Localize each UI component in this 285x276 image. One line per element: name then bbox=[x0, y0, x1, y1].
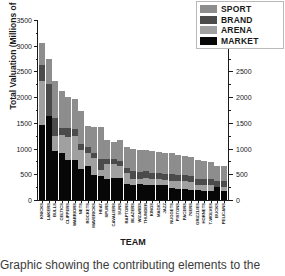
bar-segment-sport bbox=[85, 126, 91, 147]
x-axis-tick-label: BLAZERS bbox=[131, 203, 135, 223]
bar-segment-market bbox=[143, 185, 149, 200]
bar-column[interactable] bbox=[124, 20, 130, 200]
legend-item-sport[interactable]: SPORT bbox=[200, 4, 281, 15]
bar-column[interactable] bbox=[162, 20, 168, 200]
y-axis-right-tick bbox=[229, 200, 233, 201]
bar-segment-sport bbox=[214, 166, 220, 181]
y-axis-tick-label: 1500 bbox=[16, 119, 32, 126]
bar-segment-sport bbox=[175, 155, 181, 175]
bar-segment-brand bbox=[98, 159, 104, 170]
bar-segment-market bbox=[195, 190, 201, 200]
bar-column[interactable] bbox=[85, 20, 91, 200]
bar-segment-market bbox=[98, 176, 104, 200]
bar-segment-sport bbox=[117, 140, 123, 161]
bar-segment-market bbox=[46, 116, 52, 200]
bar-column[interactable] bbox=[188, 20, 194, 200]
legend-item-brand[interactable]: BRAND bbox=[200, 15, 281, 26]
bar-segment-sport bbox=[78, 111, 84, 143]
bar-column[interactable] bbox=[98, 20, 104, 200]
bar-segment-arena bbox=[65, 137, 71, 160]
bar-column[interactable] bbox=[175, 20, 181, 200]
x-tick-label-slot: WIZARDS bbox=[137, 201, 143, 237]
bar-column[interactable] bbox=[117, 20, 123, 200]
bar-column[interactable] bbox=[111, 20, 117, 200]
bar-segment-brand bbox=[39, 65, 45, 80]
bar-column[interactable] bbox=[52, 20, 58, 200]
bar-column[interactable] bbox=[182, 20, 188, 200]
bar-segment-sport bbox=[39, 43, 45, 65]
bar-segment-arena bbox=[52, 136, 58, 151]
bar-column[interactable] bbox=[169, 20, 175, 200]
bar-column[interactable] bbox=[137, 20, 143, 200]
bar-column[interactable] bbox=[39, 20, 45, 200]
bar-segment-market bbox=[162, 185, 168, 200]
x-axis-tick-label: SPURS bbox=[105, 203, 109, 217]
bar-segment-market bbox=[39, 125, 45, 200]
y-axis-tick-label: 1000 bbox=[16, 145, 32, 152]
x-tick-label-slot: WARRIORS bbox=[72, 201, 78, 237]
y-axis-right-tick-label: 2000 bbox=[236, 94, 252, 101]
bar-segment-arena bbox=[175, 181, 181, 189]
bar-column[interactable] bbox=[130, 20, 136, 200]
x-axis-tick-label: WIZARDS bbox=[137, 203, 141, 223]
bar-segment-sport bbox=[52, 81, 58, 118]
x-axis-tick-label: PISTONS bbox=[176, 203, 180, 221]
x-tick-label-slot: SPURS bbox=[104, 201, 110, 237]
y-axis-right-tick-label: 1500 bbox=[236, 119, 252, 126]
bar-segment-sport bbox=[104, 140, 110, 160]
bar-column[interactable] bbox=[149, 20, 155, 200]
y-axis-tick-label: 500 bbox=[20, 171, 32, 178]
bar-column[interactable] bbox=[104, 20, 110, 200]
bar-column[interactable] bbox=[65, 20, 71, 200]
legend-item-arena[interactable]: ARENA bbox=[200, 25, 281, 36]
legend-label: MARKET bbox=[221, 37, 259, 46]
legend-label: BRAND bbox=[221, 16, 253, 25]
x-axis-tick-label: MAVERICKS bbox=[92, 203, 96, 228]
bar-column[interactable] bbox=[72, 20, 78, 200]
bar-segment-arena bbox=[143, 178, 149, 185]
bar-segment-market bbox=[78, 169, 84, 200]
x-tick-label-slot: PELICANS bbox=[221, 201, 227, 237]
y-axis-left-ticks: 0500100015002000250030003500 bbox=[0, 0, 38, 276]
x-axis-tick-label: PACERS bbox=[183, 203, 187, 220]
bar-segment-sport bbox=[195, 160, 201, 179]
bar-segment-market bbox=[208, 191, 214, 200]
legend-item-market[interactable]: MARKET bbox=[200, 36, 281, 47]
x-axis-tick-label: RAPTORS bbox=[124, 203, 128, 223]
y-axis-right-minor-tick bbox=[229, 84, 231, 85]
bar-segment-brand bbox=[137, 172, 143, 179]
bar-segment-market bbox=[130, 185, 136, 200]
x-axis-tick-label: LAKERS bbox=[47, 203, 51, 220]
bar-segment-sport bbox=[149, 151, 155, 173]
bar-column[interactable] bbox=[156, 20, 162, 200]
x-tick-label-slot: CLIPPERS bbox=[65, 201, 71, 237]
y-axis-right-tick bbox=[229, 123, 233, 124]
bar-segment-sport bbox=[124, 147, 130, 167]
bar-segment-arena bbox=[78, 150, 84, 168]
bar-column[interactable] bbox=[143, 20, 149, 200]
x-tick-label-slot: RAPTORS bbox=[124, 201, 130, 237]
x-tick-label-slot: BLAZERS bbox=[130, 201, 136, 237]
bar-column[interactable] bbox=[91, 20, 97, 200]
bar-column[interactable] bbox=[78, 20, 84, 200]
figure-caption: Graphic showing the contributing element… bbox=[0, 258, 285, 273]
x-axis-tick-label: 76ERS bbox=[189, 203, 193, 216]
bar-segment-arena bbox=[169, 181, 175, 188]
bar-segment-sport bbox=[98, 127, 104, 160]
bar-segment-brand bbox=[59, 128, 65, 136]
bar-column[interactable] bbox=[46, 20, 52, 200]
x-axis-tick-label: KNICKS bbox=[40, 203, 44, 219]
bar-segment-arena bbox=[85, 153, 91, 166]
x-tick-label-slot: HEAT bbox=[98, 201, 104, 237]
bar-segment-sport bbox=[111, 142, 117, 160]
y-axis-right-tick-label: 2500 bbox=[236, 68, 252, 75]
bar-column[interactable] bbox=[59, 20, 65, 200]
bar-segment-market bbox=[188, 190, 194, 200]
bar-segment-market bbox=[65, 160, 71, 200]
x-axis-tick-label: KINGS bbox=[150, 203, 154, 216]
chart-legend: SPORTBRANDARENAMARKET bbox=[196, 1, 284, 49]
legend-label: ARENA bbox=[221, 26, 252, 35]
x-tick-label-slot: CAVALIERS bbox=[111, 201, 117, 237]
bar-segment-sport bbox=[91, 127, 97, 153]
x-tick-label-slot: MAVERICKS bbox=[91, 201, 97, 237]
